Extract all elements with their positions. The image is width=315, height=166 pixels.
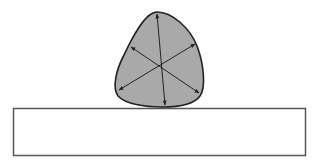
diagram-canvas [0,0,315,166]
curved-triangle-shape [115,12,203,107]
flat-surface-rectangle [14,109,306,156]
